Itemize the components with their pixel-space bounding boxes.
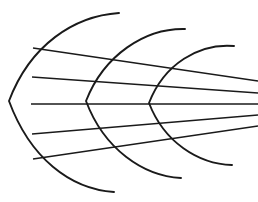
line-drawing-svg <box>0 0 258 202</box>
canvas-background <box>0 0 258 202</box>
figure-canvas <box>0 0 258 202</box>
